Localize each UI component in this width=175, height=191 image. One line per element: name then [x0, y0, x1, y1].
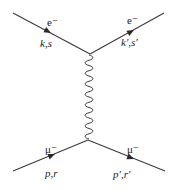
electron-out-momentum: k′,s′	[121, 36, 138, 48]
muon-in-name: μ⁻	[45, 143, 57, 155]
muon-in-momentum: p,r	[44, 167, 58, 179]
muon-out-name: μ⁻	[127, 143, 139, 155]
electron-in-momentum: k,s	[40, 37, 52, 49]
electron-outgoing-arrow-icon	[126, 27, 135, 36]
electron-incoming-arrow-icon	[43, 27, 52, 36]
photon-propagator	[85, 55, 93, 139]
electron-out-name: e⁻	[127, 14, 138, 26]
feynman-diagram: e⁻ k,s e⁻ k′,s′ μ⁻ p,r μ⁻ p′,r′	[0, 0, 175, 191]
electron-in-name: e⁻	[47, 16, 58, 28]
muon-out-momentum: p′,r′	[112, 168, 131, 180]
